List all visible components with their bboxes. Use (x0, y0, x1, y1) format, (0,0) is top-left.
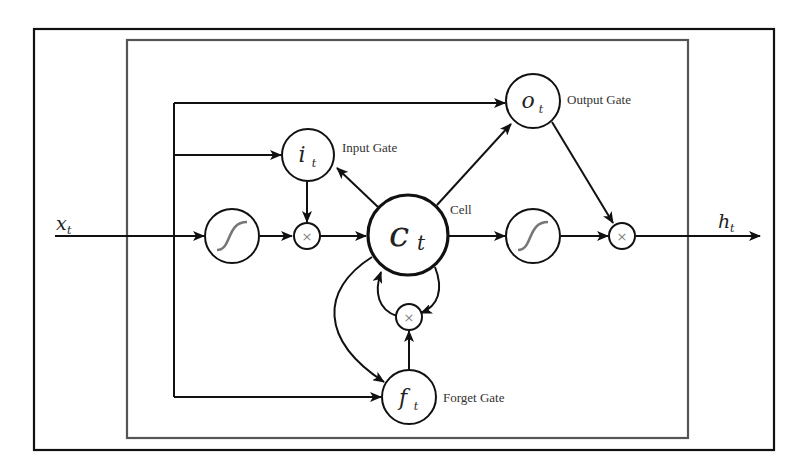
output-multiply-node: × (609, 223, 635, 249)
output-subscript: t (730, 222, 735, 235)
edge-ot-to-outmult (552, 122, 613, 223)
multiply-icon: × (617, 229, 628, 244)
edge-ct-to-forgetmult (421, 267, 439, 313)
forget-gate-label: Forget Gate (443, 390, 505, 405)
output-symbol: h (718, 210, 730, 232)
edge-ct-to-it (337, 168, 378, 207)
cell-symbol: c (389, 213, 409, 254)
input-gate-label: Input Gate (342, 140, 397, 155)
output-gate-subscript: t (539, 103, 544, 116)
multiply-icon: × (404, 310, 415, 325)
output-activation-node (506, 209, 560, 263)
input-activation-node (205, 209, 259, 263)
output-gate-symbol: o (521, 88, 534, 113)
cell-node: c t (368, 195, 448, 275)
forget-gate-node: f t (382, 370, 436, 424)
edge-ct-to-ot (437, 124, 511, 205)
forget-gate-subscript: t (414, 400, 419, 413)
input-gate-node: i t (282, 129, 334, 181)
input-symbol: x (56, 212, 67, 234)
input-gate-symbol: i (298, 142, 305, 167)
forget-multiply-node: × (396, 304, 422, 330)
output-gate-label: Output Gate (567, 92, 631, 107)
output-label: h t (718, 210, 735, 235)
input-gate-subscript: t (312, 157, 317, 170)
multiply-icon: × (302, 229, 313, 244)
lstm-diagram: × i t Input Gate c t Cell o t Output Gat… (0, 0, 804, 472)
output-gate-node: o t (506, 74, 560, 128)
cell-subscript: t (417, 231, 426, 255)
input-subscript: t (67, 224, 72, 237)
cell-label: Cell (450, 202, 472, 217)
edge-ct-to-ft (334, 257, 384, 382)
input-multiply-node: × (294, 223, 320, 249)
edge-forgetmult-to-ct (378, 272, 397, 316)
input-label: x t (56, 212, 72, 237)
